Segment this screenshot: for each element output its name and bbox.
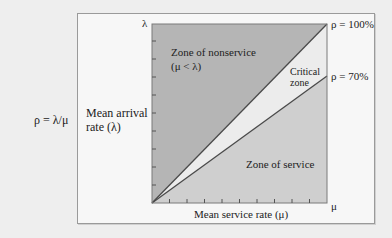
x-axis-max-label: μ: [331, 200, 337, 213]
nonservice-zone-label-line1: Zone of nonservice: [171, 46, 256, 59]
critical-zone-label-line2: zone: [290, 77, 309, 88]
rho-100-label: ρ = 100%: [331, 18, 374, 31]
service-zone-label: Zone of service: [246, 158, 314, 171]
x-axis-label: Mean service rate (μ): [194, 208, 288, 221]
y-axis-label-line2: rate (λ): [86, 121, 121, 134]
nonservice-zone-label-line2: (μ < λ): [171, 60, 201, 73]
critical-zone-label-line1: Critical: [290, 66, 320, 77]
y-axis-max-label: λ: [142, 17, 147, 30]
y-axis-label-line1: Mean arrival: [86, 107, 148, 120]
rho-70-label: ρ = 70%: [331, 70, 368, 83]
